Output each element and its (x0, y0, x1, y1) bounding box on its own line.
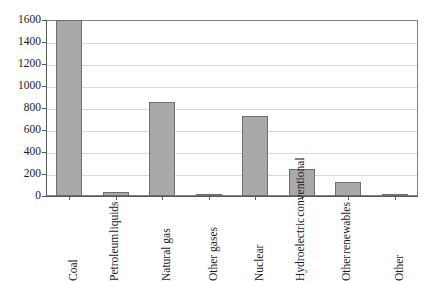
x-axis-category-line: Hydroelectric (295, 218, 306, 281)
x-axis-category-line: conventional (295, 157, 306, 216)
y-axis-tick-label: 1400 (1, 36, 41, 48)
y-axis-tick-label: 600 (1, 124, 41, 136)
x-axis-line (46, 196, 418, 197)
x-axis-category-line: Petroleum (109, 234, 120, 281)
bar (382, 194, 408, 196)
y-axis-tick-label: 1000 (1, 80, 41, 92)
x-axis-category-line: liquids (109, 201, 120, 232)
bar-chart: 16001400120010008006004002000 CoalPetrol… (0, 0, 432, 281)
x-axis-category-line: Other gases (208, 227, 219, 281)
bar (103, 192, 129, 196)
y-axis-tick-label: 400 (1, 146, 41, 158)
x-axis-category-line: Coal (68, 259, 79, 281)
y-axis-tick-label: 0 (1, 190, 41, 202)
x-axis-category-line: renewables (341, 202, 352, 254)
y-axis-tick-label: 200 (1, 168, 41, 180)
x-axis-category-line: Natural gas (161, 228, 172, 281)
x-axis-category-line: Nuclear (254, 245, 265, 281)
y-axis-tick-label: 1200 (1, 58, 41, 70)
bar (196, 194, 222, 196)
y-axis-tick-label: 800 (1, 102, 41, 114)
bar (56, 20, 82, 196)
x-axis-category-line: Other (341, 255, 352, 281)
bar (149, 102, 175, 196)
bar (242, 116, 268, 196)
x-axis-category-labels: CoalPetroleumliquidsNatural gasOther gas… (46, 200, 418, 281)
y-axis-tick-labels: 16001400120010008006004002000 (0, 20, 41, 196)
y-axis-tick-label: 1600 (1, 14, 41, 26)
x-axis-category-line: Other (394, 255, 405, 281)
bar (335, 182, 361, 196)
bar-series (46, 20, 418, 196)
